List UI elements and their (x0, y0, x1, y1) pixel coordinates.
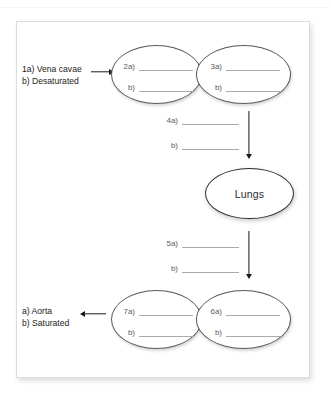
oval-6-blank-b[interactable] (226, 327, 280, 337)
diagram-canvas: 1a) Vena cavae b) Desaturated 2a) b) (17, 22, 309, 377)
worksheet-page: 1a) Vena cavae b) Desaturated 2a) b) (0, 0, 331, 395)
block-4-label-a: 4a) (163, 116, 178, 125)
oval-3[interactable]: 3a) b) (196, 45, 291, 104)
block-5-label-b: b) (163, 264, 178, 273)
oval-2-row-a[interactable]: 2a) (120, 57, 193, 71)
oval-7-label-b: b) (120, 328, 135, 337)
block-4-label-b: b) (163, 141, 178, 150)
oval-lungs-content: Lungs (206, 169, 293, 218)
arrow-outflow-head (80, 311, 85, 317)
oval-7-row-b[interactable]: b) (120, 323, 193, 337)
oval-3-label-b: b) (207, 83, 222, 92)
block-4-blank-a[interactable] (182, 115, 239, 125)
oval-3-label-a: 3a) (207, 62, 222, 71)
oval-6[interactable]: 6a) b) (196, 290, 291, 349)
oval-7[interactable]: 7a) b) (111, 290, 202, 349)
oval-7-blank-a[interactable] (139, 306, 193, 316)
oval-7-label-a: 7a) (120, 307, 135, 316)
blank-block-5: 5a) b) (163, 233, 239, 273)
oval-3-content: 3a) b) (197, 46, 290, 103)
block-5-blank-b[interactable] (182, 263, 239, 273)
oval-6-label-a: 6a) (207, 307, 222, 316)
arrow-to-lungs (244, 111, 253, 159)
label-inflow-line1: 1a) Vena cavae (22, 64, 82, 76)
oval-7-blank-b[interactable] (139, 327, 193, 337)
label-outflow-line1: a) Aorta (22, 306, 69, 318)
arrow-inflow-shaft (91, 71, 109, 72)
arrow-from-lungs-shaft (248, 231, 249, 275)
arrow-outflow-shaft (85, 313, 106, 314)
oval-7-row-a[interactable]: 7a) (120, 302, 193, 316)
oval-2-blank-b[interactable] (139, 82, 193, 92)
label-outflow: a) Aorta b) Saturated (22, 306, 69, 329)
block-5-row-b[interactable]: b) (163, 258, 239, 273)
oval-lungs[interactable]: Lungs (205, 168, 294, 219)
oval-2-content: 2a) b) (112, 46, 201, 103)
block-5-row-a[interactable]: 5a) (163, 233, 239, 248)
oval-6-row-a[interactable]: 6a) (207, 302, 280, 316)
arrow-from-lungs-head (246, 274, 252, 279)
diagram-card: 1a) Vena cavae b) Desaturated 2a) b) (16, 21, 310, 378)
oval-2-label-a: 2a) (120, 62, 135, 71)
oval-6-content: 6a) b) (197, 291, 290, 348)
arrow-outflow (80, 309, 106, 318)
oval-2-label-b: b) (120, 83, 135, 92)
oval-2-row-b[interactable]: b) (120, 78, 193, 92)
oval-3-blank-a[interactable] (226, 61, 280, 71)
arrow-to-lungs-head (246, 154, 252, 159)
label-inflow: 1a) Vena cavae b) Desaturated (22, 64, 82, 87)
label-inflow-line2: b) Desaturated (22, 76, 82, 88)
oval-lungs-label: Lungs (235, 188, 265, 200)
arrow-from-lungs (244, 231, 253, 279)
oval-6-blank-a[interactable] (226, 306, 280, 316)
page-top-rule (2, 7, 329, 9)
oval-3-row-b[interactable]: b) (207, 78, 280, 92)
oval-3-row-a[interactable]: 3a) (207, 57, 280, 71)
label-outflow-line2: b) Saturated (22, 318, 69, 330)
oval-3-blank-b[interactable] (226, 82, 280, 92)
oval-6-label-b: b) (207, 328, 222, 337)
block-5-label-a: 5a) (163, 239, 178, 248)
block-4-row-b[interactable]: b) (163, 135, 239, 150)
oval-6-row-b[interactable]: b) (207, 323, 280, 337)
blank-block-4: 4a) b) (163, 110, 239, 150)
oval-2-blank-a[interactable] (139, 61, 193, 71)
block-5-blank-a[interactable] (182, 238, 239, 248)
arrow-to-lungs-shaft (248, 111, 249, 155)
block-4-blank-b[interactable] (182, 140, 239, 150)
oval-2[interactable]: 2a) b) (111, 45, 202, 104)
block-4-row-a[interactable]: 4a) (163, 110, 239, 125)
oval-7-content: 7a) b) (112, 291, 201, 348)
